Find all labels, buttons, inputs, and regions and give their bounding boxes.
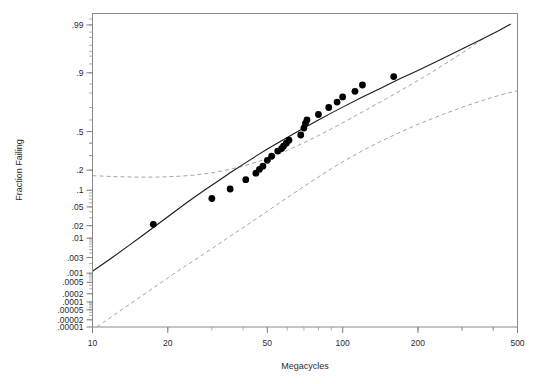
probability-plot: .99.9.5.2.1.05.02.01.003.001.0005.0002.0… [0,0,534,384]
data-point [352,88,359,95]
y-axis-tick-label: .003 [67,253,84,263]
data-point [304,117,311,124]
data-point [325,104,332,111]
x-axis-tick-label: 500 [510,338,524,348]
plot-fit-line [93,24,511,271]
x-axis-title: Megacycles [281,361,329,371]
x-axis-tick-label: 20 [163,338,173,348]
x-axis-tick-label: 10 [88,338,98,348]
data-point [260,163,267,170]
x-axis-tick-labels: 102050100200500 [88,338,525,348]
y-axis-tick-label: .5 [76,127,83,137]
confidence-band-curve [93,37,485,177]
y-axis-tick-label: .1 [76,185,83,195]
fit-line-curve [93,24,511,271]
data-point [339,94,346,101]
data-point [208,195,215,202]
data-point [227,186,234,193]
data-point [297,132,304,139]
y-axis-tick-label: .02 [72,221,84,231]
x-axis-ticks [93,327,518,333]
data-point [334,99,341,106]
data-point [359,82,366,89]
data-point [315,111,322,118]
data-point [268,153,275,160]
plot-frame [93,14,518,328]
y-axis-tick-label: .00005 [58,305,84,315]
data-point [286,137,293,144]
data-point [242,176,249,183]
data-point [150,221,157,228]
plot-bands [93,37,518,327]
y-axis-tick-label: .01 [72,233,84,243]
y-axis-tick-label: .00001 [58,322,84,332]
y-axis-tick-label: .0005 [62,277,84,287]
y-axis-tick-label: .2 [76,165,83,175]
y-axis-tick-label: .99 [72,20,84,30]
x-axis-tick-label: 100 [336,338,350,348]
plot-data-points [150,73,397,228]
y-axis-tick-label: .9 [76,68,83,78]
x-axis-tick-label: 50 [263,338,273,348]
y-axis-ticks [87,19,93,327]
y-axis-tick-labels: .99.9.5.2.1.05.02.01.003.001.0005.0002.0… [58,20,84,332]
y-axis-title: Fraction Failing [14,139,24,201]
y-axis-tick-label: .05 [72,202,84,212]
data-point [390,73,397,80]
probability-plot-canvas: .99.9.5.2.1.05.02.01.003.001.0005.0002.0… [0,0,534,384]
x-axis-tick-label: 200 [411,338,425,348]
